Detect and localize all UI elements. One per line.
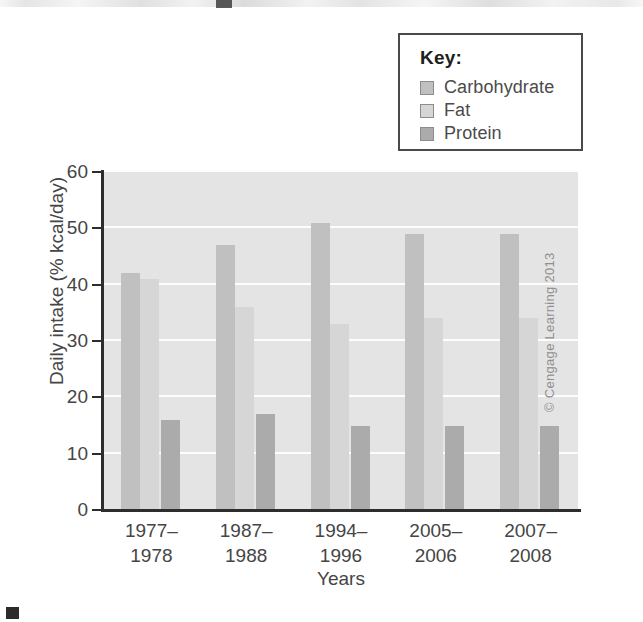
y-tick-40 — [92, 284, 103, 286]
legend-item-fat: Fat — [420, 99, 581, 122]
x-axis-tick-labels: 1977– 19781987– 19881994– 19962005– 2006… — [104, 518, 578, 568]
bar-group-4 — [388, 172, 483, 510]
bar-carbohydrate-3 — [311, 223, 330, 510]
bar-group-3 — [294, 172, 389, 510]
bar-carbohydrate-2 — [216, 245, 235, 510]
y-tick-50 — [92, 227, 103, 229]
x-tick-label-1: 1977– 1978 — [104, 518, 199, 568]
y-tick-0 — [92, 509, 103, 511]
x-tick-label-2: 1987– 1988 — [199, 518, 294, 568]
legend-label-fat: Fat — [444, 100, 470, 121]
legend-title: Key: — [420, 47, 581, 69]
bar-fat-5 — [519, 318, 538, 510]
y-tick-60 — [92, 171, 103, 173]
chart-legend: Key: Carbohydrate Fat Protein — [398, 33, 583, 151]
legend-label-carbohydrate: Carbohydrate — [444, 77, 554, 98]
legend-swatch-icon-fat — [420, 104, 434, 118]
bar-group-2 — [199, 172, 294, 510]
bar-group-1 — [104, 172, 199, 510]
y-tick-label-10: 10 — [52, 443, 88, 465]
bar-fat-1 — [140, 279, 159, 510]
y-tick-label-0: 0 — [52, 499, 88, 521]
bar-carbohydrate-5 — [500, 234, 519, 510]
y-axis-title: Daily intake (% kcal/day) — [46, 131, 68, 431]
legend-swatch-icon-protein — [420, 127, 434, 141]
x-axis-line — [101, 509, 581, 512]
bar-fat-4 — [424, 318, 443, 510]
y-tick-30 — [92, 340, 103, 342]
bar-fat-3 — [330, 324, 349, 510]
legend-item-protein: Protein — [420, 122, 581, 145]
scan-artifact-mark — [216, 0, 232, 8]
x-tick-label-5: 2007– 2008 — [483, 518, 578, 568]
bar-carbohydrate-1 — [121, 273, 140, 510]
copyright-notice: © Cengage Learning 2013 — [542, 232, 557, 412]
x-tick-label-3: 1994– 1996 — [294, 518, 389, 568]
bar-group-5 — [483, 172, 578, 510]
scan-artifact-band — [0, 0, 643, 7]
bar-protein-1 — [161, 420, 180, 510]
bar-fat-2 — [235, 307, 254, 510]
legend-label-protein: Protein — [444, 123, 502, 144]
legend-item-carbohydrate: Carbohydrate — [420, 76, 581, 99]
bar-protein-2 — [256, 414, 275, 510]
bar-protein-5 — [540, 426, 559, 511]
bar-carbohydrate-4 — [405, 234, 424, 510]
bar-protein-3 — [351, 426, 370, 511]
bar-series-container — [104, 172, 578, 510]
x-axis-title: Years — [104, 568, 578, 590]
y-tick-10 — [92, 453, 103, 455]
bar-protein-4 — [445, 426, 464, 511]
plot-area — [104, 172, 578, 510]
legend-swatch-icon-carbohydrate — [420, 81, 434, 95]
figure-label-mark — [6, 607, 19, 619]
x-tick-label-4: 2005– 2006 — [388, 518, 483, 568]
y-tick-20 — [92, 396, 103, 398]
